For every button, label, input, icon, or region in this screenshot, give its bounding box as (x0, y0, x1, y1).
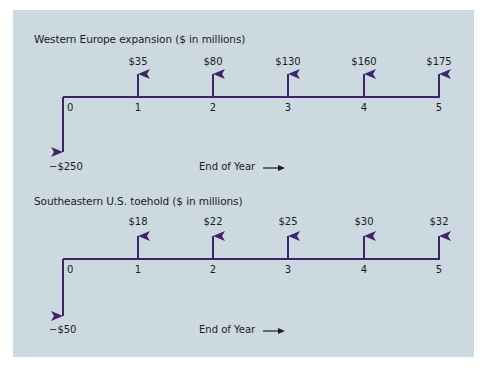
year-label: 3 (285, 264, 291, 275)
inflow-label: $18 (128, 216, 147, 227)
end-of-year-arrowhead (278, 165, 285, 171)
year-label: 2 (210, 264, 216, 275)
inflow-label: $32 (429, 216, 448, 227)
year-label: 0 (67, 264, 73, 275)
outflow-label: −$250 (49, 161, 83, 172)
timeline-title: Western Europe expansion ($ in millions) (34, 33, 245, 45)
year-label: 4 (361, 264, 367, 275)
inflow-label: $22 (203, 216, 222, 227)
end-of-year-arrowhead (278, 328, 285, 334)
timeline-western-europe (63, 74, 440, 171)
timeline-southeastern-us (63, 236, 440, 334)
inflow-label: $175 (426, 56, 451, 67)
year-label: 4 (361, 102, 367, 113)
outflow-label: −$50 (49, 324, 76, 335)
inflow-label: $80 (203, 56, 222, 67)
year-label: 5 (436, 264, 442, 275)
timeline-title: Southeastern U.S. toehold ($ in millions… (34, 195, 242, 207)
year-label: 1 (135, 264, 141, 275)
inflow-label: $160 (351, 56, 376, 67)
inflow-label: $130 (275, 56, 300, 67)
inflow-label: $35 (128, 56, 147, 67)
cash-flow-diagrams (0, 0, 487, 369)
axis-label: End of Year (199, 161, 255, 172)
year-label: 0 (67, 102, 73, 113)
year-label: 2 (210, 102, 216, 113)
year-label: 5 (436, 102, 442, 113)
inflow-label: $30 (354, 216, 373, 227)
year-label: 1 (135, 102, 141, 113)
axis-label: End of Year (199, 324, 255, 335)
inflow-label: $25 (278, 216, 297, 227)
year-label: 3 (285, 102, 291, 113)
